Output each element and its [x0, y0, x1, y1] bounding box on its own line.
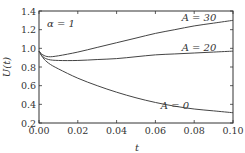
series-label: A = 20: [181, 42, 217, 53]
y-tick-label: 0.8: [21, 62, 36, 73]
y-tick-label: 1.0: [21, 43, 36, 54]
y-tick-label: 1.2: [21, 24, 36, 35]
y-axis-label: U(t): [1, 57, 12, 77]
x-tick-label: 0.04: [106, 125, 127, 136]
x-tick-label: 0.10: [222, 125, 243, 136]
y-tick-label: 1.4: [21, 6, 36, 17]
y-tick-label: 0.6: [21, 80, 36, 91]
x-tick-label: 0.08: [184, 125, 205, 136]
x-axis-label: t: [135, 142, 140, 153]
y-tick-label: 0.2: [21, 118, 36, 129]
alpha-annotation: α = 1: [47, 18, 75, 29]
x-tick-label: 0.02: [67, 125, 88, 136]
line-chart: 0.000.020.040.060.080.100.20.40.60.81.01…: [0, 0, 245, 153]
series-label: A = 0: [160, 100, 190, 111]
series-lines: [39, 20, 233, 112]
series-label: A = 30: [181, 12, 217, 23]
y-tick-label: 0.4: [21, 99, 36, 110]
x-tick-label: 0.06: [145, 125, 166, 136]
